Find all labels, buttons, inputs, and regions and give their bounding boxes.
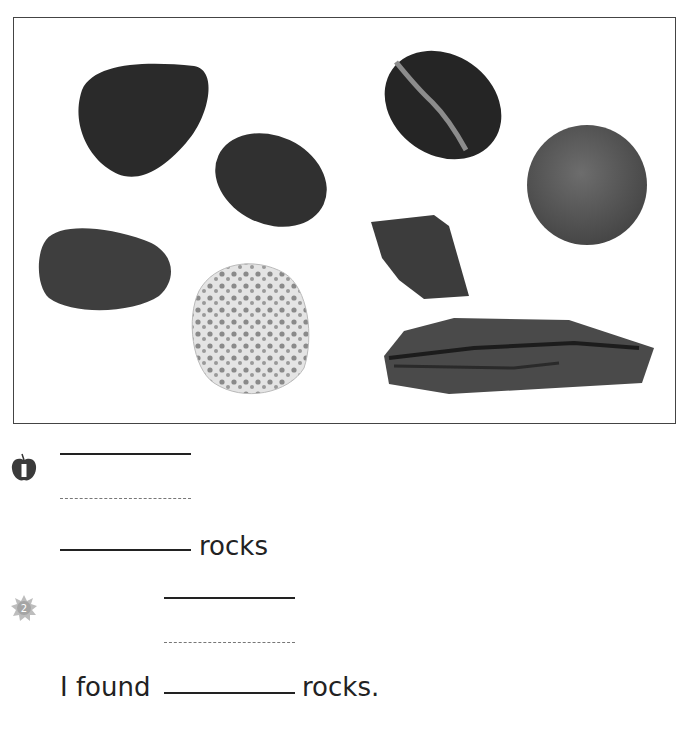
answer-guide-line-1 — [60, 498, 191, 499]
apple-icon — [10, 453, 38, 483]
rock-speckled — [39, 228, 171, 310]
sentence-suffix: rocks. — [302, 672, 379, 702]
answer-line-2-bottom[interactable] — [164, 692, 295, 694]
rock-porous — [192, 264, 309, 394]
answer-line-1-bottom[interactable] — [60, 549, 191, 551]
rocks-illustration — [14, 18, 677, 425]
rocks-photo — [13, 17, 676, 424]
rock-striped — [364, 28, 523, 181]
answer-line-1-top[interactable] — [60, 453, 191, 455]
answer-line-2-top[interactable] — [164, 597, 295, 599]
rock-oval — [200, 116, 342, 245]
rock-round — [527, 125, 647, 245]
problem-1-label: rocks — [199, 531, 268, 561]
svg-text:2: 2 — [21, 603, 27, 614]
sentence-prefix: I found — [60, 672, 150, 702]
rock-slate — [384, 318, 654, 394]
rock-angular — [371, 215, 469, 299]
answer-guide-line-2 — [164, 642, 295, 643]
rock-triangular — [78, 64, 208, 177]
sun-icon: 2 — [10, 594, 38, 622]
